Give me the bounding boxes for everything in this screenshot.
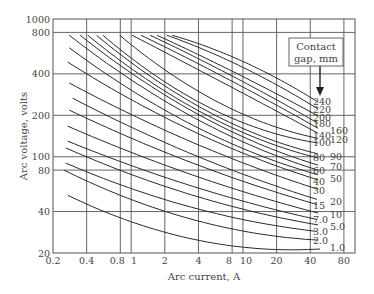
curve-gap-2-0 (64, 170, 318, 240)
legend-title-line2: gap, mm (294, 53, 339, 64)
y-tick-label: 20 (38, 248, 50, 259)
x-axis-label: Arc current, A (167, 271, 241, 282)
y-tick-label: 200 (32, 110, 50, 121)
curve-label-90: 90 (330, 151, 342, 162)
curve-label-160: 160 (330, 125, 348, 136)
curve-labels: 1.02.03.05.07.01015203040506070809010012… (313, 96, 348, 253)
curves (64, 35, 320, 250)
y-tick-label: 1000 (26, 14, 50, 25)
curve-gap-3-0 (66, 163, 317, 231)
arc-voltage-chart: 1.02.03.05.07.01015203040506070809010012… (0, 0, 374, 294)
x-tick-label: 10 (240, 255, 252, 266)
x-tick-label: 20 (271, 255, 283, 266)
curve-label-240: 240 (313, 96, 331, 107)
legend-box: Contact gap, mm (289, 38, 343, 96)
curve-label-1-0: 1.0 (330, 242, 345, 253)
curve-label-50: 50 (330, 173, 342, 184)
curve-label-3-0: 3.0 (313, 226, 328, 237)
curve-label-7-0: 7.0 (313, 214, 328, 225)
curve-label-80: 80 (313, 152, 325, 163)
curve-label-40: 40 (313, 176, 325, 187)
x-tick-label: 2 (162, 255, 168, 266)
curve-label-15: 15 (313, 200, 325, 211)
x-tick-label: 8 (226, 255, 232, 266)
curve-label-5-0: 5.0 (330, 221, 345, 232)
x-tick-label: 0.4 (79, 255, 94, 266)
y-tick-label: 80 (38, 165, 50, 176)
y-tick-label: 100 (32, 151, 50, 162)
x-tick-label: 0.8 (110, 255, 125, 266)
y-tick-label: 800 (32, 27, 50, 38)
y-axis-label: Arc voltage, volts (18, 92, 29, 181)
x-tick-label: 80 (338, 255, 350, 266)
curve-label-60: 60 (313, 165, 325, 176)
curve-label-10: 10 (330, 209, 342, 220)
y-tick-label: 400 (32, 68, 50, 79)
curve-label-70: 70 (330, 161, 342, 172)
curve-label-140: 140 (313, 130, 331, 141)
x-tick-label: 1 (131, 255, 137, 266)
curve-label-20: 20 (330, 196, 342, 207)
x-tick-label: 40 (304, 255, 316, 266)
legend-title-line1: Contact (296, 41, 336, 52)
curve-gap-10 (68, 126, 319, 213)
y-tick-label: 40 (38, 206, 50, 217)
legend-arrow-head (316, 87, 324, 96)
curve-gap-80 (88, 35, 318, 158)
x-tick-label: 4 (195, 255, 201, 266)
